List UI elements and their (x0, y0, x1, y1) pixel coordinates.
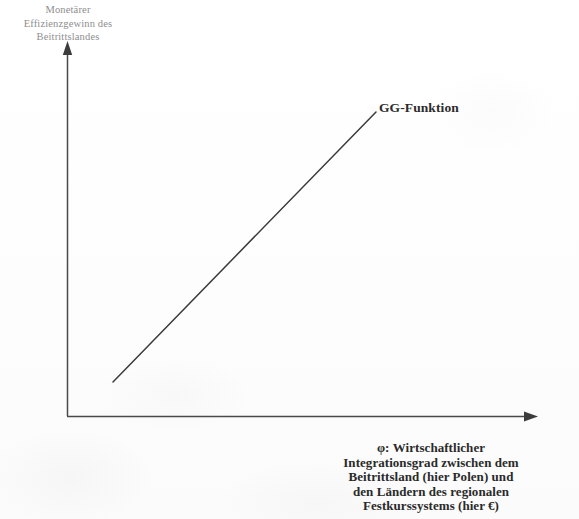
x-axis-caption-line-3: Beitrittsland (hier Polen) und (286, 470, 576, 485)
x-axis-caption-line-4: den Ländern des regionalen (286, 485, 576, 500)
x-axis-caption-line-2: Integrationsgrad zwischen dem (286, 456, 576, 471)
x-axis-caption-line-5: Festkurssystems (hier €) (286, 499, 576, 514)
up-arrow-icon (63, 41, 72, 55)
x-axis-caption-line-1: φ: Wirtschaftlicher (286, 441, 576, 456)
right-arrow-icon (524, 412, 538, 422)
figure-canvas: Monetärer Effizienzgewinn des Beitrittsl… (0, 0, 579, 519)
x-axis-caption: φ: Wirtschaftlicher Integrationsgrad zwi… (286, 441, 576, 514)
series-label-gg-funktion: GG-Funktion (379, 100, 459, 116)
gg-funktion-line (113, 112, 376, 382)
